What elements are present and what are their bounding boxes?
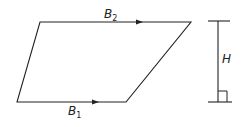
bottom-base-arrow-icon	[92, 100, 99, 105]
trapezoid-diagram: B2 B1 H	[0, 0, 246, 127]
top-base-arrow-icon	[136, 20, 143, 25]
height-label: H	[222, 52, 231, 66]
top-base-label: B2	[104, 7, 117, 23]
bottom-base-label: B1	[68, 104, 81, 120]
right-angle-icon	[218, 91, 227, 102]
trapezoid-shape	[17, 22, 191, 102]
